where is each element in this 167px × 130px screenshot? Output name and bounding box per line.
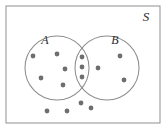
element-dot-b_only	[118, 54, 123, 59]
element-dot-a_and_b	[80, 75, 85, 80]
element-dot-a_only	[39, 76, 44, 81]
label-s: S	[143, 9, 150, 24]
venn-diagram-figure: SAB	[0, 0, 167, 130]
element-dot-a_only	[63, 67, 68, 72]
element-dot-a_only	[61, 83, 66, 88]
element-dot-outside	[89, 106, 94, 111]
element-dot-outside	[79, 101, 84, 106]
universe-rectangle	[6, 6, 160, 123]
element-dot-a_and_b	[80, 55, 85, 60]
label-a: A	[40, 33, 49, 47]
element-dot-b_only	[96, 66, 101, 71]
element-dot-b_only	[122, 78, 127, 83]
element-dot-outside	[45, 109, 50, 114]
element-dot-a_and_b	[80, 65, 85, 70]
label-b: B	[111, 33, 119, 47]
element-dot-a_only	[55, 52, 60, 57]
element-dot-a_only	[31, 54, 36, 59]
element-dot-outside	[65, 109, 70, 114]
venn-diagram-canvas: SAB	[0, 0, 167, 130]
